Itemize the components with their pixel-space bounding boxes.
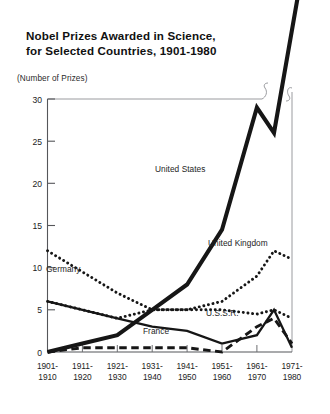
series-label-united-states: United States bbox=[155, 164, 205, 174]
y-axis-tick-labels: 30 25 20 15 10 5 0 bbox=[32, 95, 42, 358]
series-label-germany: Germany bbox=[46, 264, 81, 274]
series-label-ussr: U.S.S.R. bbox=[206, 308, 239, 318]
y-tick-label-25: 25 bbox=[32, 137, 42, 147]
y-tick-label-10: 10 bbox=[32, 263, 42, 273]
chart-container: Nobel Prizes Awarded in Science, for Sel… bbox=[0, 0, 330, 414]
series-line-germany bbox=[48, 251, 293, 318]
x-axis-tick-labels: 1901- 1910 1911- 1920 1921- 1930 1931- 1… bbox=[37, 361, 303, 382]
x-tick-label-1971-1980-line1: 1971- bbox=[281, 361, 302, 371]
x-tick-label-1931-1940-line1: 1931- bbox=[142, 361, 163, 371]
series-label-united-kingdom: United Kingdom bbox=[208, 238, 268, 248]
x-tick-label-1931-1940-line2: 1940 bbox=[143, 372, 162, 382]
axis-break-squiggle-left bbox=[262, 83, 268, 99]
x-tick-label-1961-1970-line1: 1961- bbox=[246, 361, 267, 371]
x-tick-label-1921-1930-line2: 1930 bbox=[108, 372, 127, 382]
x-tick-label-1961-1970-line2: 1970 bbox=[248, 372, 267, 382]
x-tick-label-1941-1950-line1: 1941- bbox=[177, 361, 198, 371]
series-line-united-kingdom bbox=[48, 251, 293, 318]
x-tick-label-1901-1910-line2: 1910 bbox=[38, 372, 57, 382]
x-tick-label-1951-1960-line2: 1960 bbox=[213, 372, 232, 382]
x-tick-label-1901-1910-line1: 1901- bbox=[37, 361, 58, 371]
series-line-united-states bbox=[48, 0, 301, 352]
x-tick-label-1911-1920-line2: 1920 bbox=[73, 372, 92, 382]
x-tick-label-1941-1950-line2: 1950 bbox=[178, 372, 197, 382]
y-tick-label-30: 30 bbox=[32, 95, 42, 105]
x-tick-label-1971-1980-line2: 1980 bbox=[283, 372, 302, 382]
y-tick-label-15: 15 bbox=[32, 221, 42, 231]
series-line-france bbox=[48, 301, 293, 347]
x-tick-label-1921-1930-line1: 1921- bbox=[107, 361, 128, 371]
y-tick-label-0: 0 bbox=[37, 348, 42, 358]
axis-break-squiggle-right bbox=[286, 88, 292, 101]
series-label-france: France bbox=[143, 326, 169, 336]
y-axis-ticks bbox=[48, 99, 56, 352]
y-tick-label-5: 5 bbox=[37, 305, 42, 315]
plot-area: 30 25 20 15 10 5 0 United Stat bbox=[0, 0, 330, 414]
x-tick-label-1911-1920-line1: 1911- bbox=[72, 361, 93, 371]
x-tick-label-1951-1960-line1: 1951- bbox=[211, 361, 232, 371]
y-tick-label-20: 20 bbox=[32, 179, 42, 189]
